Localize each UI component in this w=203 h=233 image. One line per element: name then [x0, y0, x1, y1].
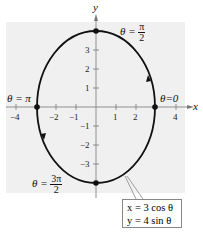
y-axis-arrow-icon — [94, 14, 98, 21]
label-theta-0: θ=0 — [160, 92, 178, 104]
y-tick-label: 2 — [85, 64, 90, 74]
point-theta-3pi-half — [93, 180, 99, 186]
label-theta-pi: θ = π — [7, 92, 31, 104]
plot-background — [6, 22, 185, 193]
x-tick-label: −2 — [49, 112, 59, 122]
x-axis-label: x — [193, 100, 198, 112]
x-tick-label: −1 — [69, 112, 79, 122]
y-tick-label: 3 — [85, 45, 90, 55]
y-axis-label: y — [93, 1, 98, 13]
y-tick-label: 1 — [85, 83, 90, 93]
point-theta-pi-half — [93, 28, 99, 34]
equation-box: x = 3 cos θ y = 4 sin θ — [122, 199, 182, 228]
x-tick-label: 2 — [133, 112, 138, 122]
y-tick-label: −1 — [80, 121, 90, 131]
y-tick-label: −3 — [80, 159, 90, 169]
equation-y: y = 4 sin θ — [127, 214, 181, 227]
label-theta-pi-half: θ = π2 — [120, 22, 145, 43]
y-tick-label: −2 — [80, 140, 90, 150]
x-tick-label: 1 — [113, 112, 118, 122]
x-tick-label: −4 — [10, 112, 20, 122]
point-theta-pi — [34, 104, 40, 110]
equation-x: x = 3 cos θ — [127, 201, 181, 214]
point-theta-0 — [152, 104, 158, 110]
x-tick-label: 4 — [173, 112, 178, 122]
label-theta-3pi-half: θ = 3π2 — [32, 174, 62, 195]
